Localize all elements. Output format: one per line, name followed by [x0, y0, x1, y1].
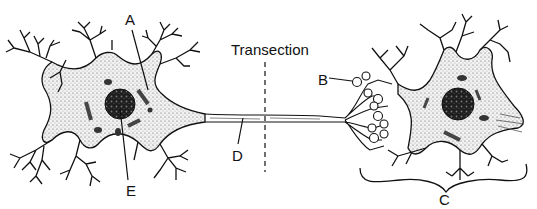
right-neuron [360, 14, 527, 192]
left-nucleus [105, 89, 135, 119]
axon-terminals [345, 72, 392, 150]
neuron-diagram: A Transection B D E C [0, 0, 537, 209]
neuron-illustration [0, 0, 537, 209]
axon [205, 114, 345, 122]
left-neuron [6, 22, 205, 186]
right-nucleus [442, 88, 474, 120]
brace-c [360, 164, 527, 192]
label-a: A [125, 12, 135, 27]
leader-b [329, 78, 352, 81]
label-b: B [318, 72, 328, 87]
label-e: E [126, 183, 136, 198]
label-transection: Transection [231, 42, 309, 57]
label-d: D [232, 148, 243, 163]
label-c: C [439, 192, 450, 207]
